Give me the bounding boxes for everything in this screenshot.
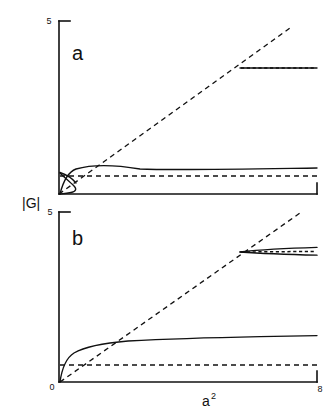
panel-b-upper-branch-solid-bottom — [240, 252, 317, 255]
plot-canvas: a 5 b 5 — [0, 0, 336, 420]
panel-a-y-tick-label-5: 5 — [46, 16, 51, 26]
panel-a-origin-cusp-inner — [60, 173, 76, 184]
y-axis-title: |G| — [22, 195, 40, 211]
x-tick-label-8: 8 — [317, 384, 322, 394]
x-axis-title: a 2 — [202, 391, 216, 409]
panel-b-diagonal-dashed-line — [60, 213, 300, 382]
x-tick-label-0: 0 — [49, 382, 54, 392]
panel-b-lower-branch-curve — [60, 336, 317, 382]
x-axis-title-base: a — [202, 393, 210, 409]
panel-b-upper-branch-dotted — [241, 251, 316, 252]
panel-b-y-tick-label-5: 5 — [47, 207, 52, 217]
panel-a-lower-branch-curve — [60, 166, 317, 194]
x-axis-title-exponent: 2 — [211, 391, 216, 401]
panel-a-letter: a — [72, 42, 84, 64]
panel-b: b 5 0 8 — [47, 207, 322, 394]
figure-root: a 5 b 5 — [0, 0, 336, 420]
panel-b-letter: b — [72, 227, 83, 249]
panel-a: a 5 — [46, 16, 317, 194]
